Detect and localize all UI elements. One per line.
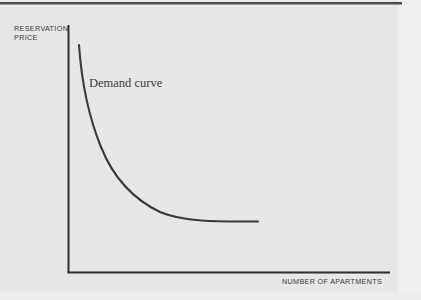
y-axis-label: RESERVATION PRICE [14,24,68,42]
figure-screenshot: RESERVATION PRICE NUMBER OF APARTMENTS D… [0,0,421,300]
demand-curve-plot [0,0,421,300]
demand-curve-label: Demand curve [89,76,162,91]
demand-curve-path [79,45,258,222]
y-axis-label-line-2: PRICE [14,33,68,42]
y-axis-label-line-1: RESERVATION [14,24,68,33]
x-axis-label: NUMBER OF APARTMENTS [282,277,382,286]
